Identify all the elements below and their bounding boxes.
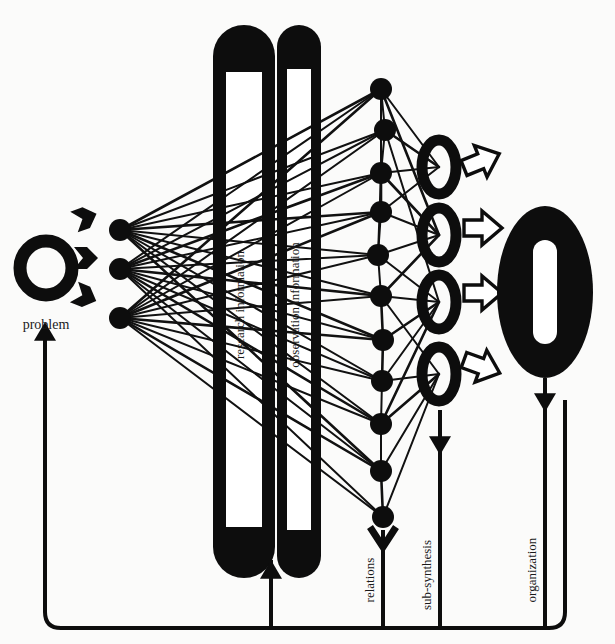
relation-node-4 [370, 201, 392, 223]
relation-node-1 [370, 78, 392, 100]
source-node-3 [109, 307, 131, 329]
label-sub-synthesis: sub-synthesis [419, 540, 434, 610]
source-node-2 [109, 258, 131, 280]
organization-o-counter [533, 240, 557, 344]
relation-node-9 [370, 413, 392, 435]
label-relations: relations [362, 558, 377, 603]
relation-node-5 [367, 244, 389, 266]
source-nodes [109, 219, 131, 329]
label-observation-information: observation information [287, 242, 302, 368]
diagram-canvas: problem research information observation… [0, 0, 615, 644]
knowledge-process-diagram: problem research information observation… [0, 0, 615, 644]
relation-node-8 [371, 370, 393, 392]
relation-node-11 [372, 506, 394, 528]
relation-node-10 [370, 460, 392, 482]
relation-node-3 [370, 162, 392, 184]
organization-group [497, 206, 593, 378]
label-research-information: research information [232, 251, 247, 359]
label-problem: problem [23, 317, 70, 332]
relation-node-7 [372, 329, 394, 351]
relation-node-2 [374, 119, 396, 141]
source-node-1 [109, 219, 131, 241]
relation-node-6 [370, 285, 392, 307]
label-organization: organization [524, 537, 539, 602]
